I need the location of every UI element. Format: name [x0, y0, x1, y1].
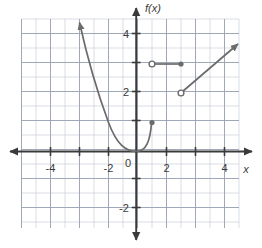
y-tick-label-2: 2 [123, 86, 129, 98]
axis-lines [10, 8, 252, 240]
origin-label: 0 [125, 157, 131, 169]
y-tick-label--2: -2 [119, 202, 129, 214]
x-tick-label-2: 2 [163, 162, 169, 174]
x-tick-label-4: 4 [221, 162, 227, 174]
x-axis-label: x [242, 163, 249, 175]
open-endpoint-ray [178, 90, 184, 96]
open-endpoint-segment [149, 61, 155, 67]
function-graph [80, 23, 239, 152]
y-tick-label-4: 4 [123, 28, 129, 40]
x-tick-label--2: -2 [104, 162, 114, 174]
graph-canvas: -4 -2 2 4 4 2 -2 0 x f(x) [0, 0, 262, 248]
closed-endpoint-parabola [149, 120, 154, 125]
grid-minor [22, 19, 240, 228]
grid-major [22, 19, 240, 228]
closed-endpoint-segment [178, 61, 183, 66]
parabola-branch [80, 23, 152, 152]
x-tick-label--4: -4 [46, 162, 56, 174]
piecewise-function-graph: -4 -2 2 4 4 2 -2 0 x f(x) [0, 0, 262, 248]
y-axis-label: f(x) [145, 2, 161, 14]
